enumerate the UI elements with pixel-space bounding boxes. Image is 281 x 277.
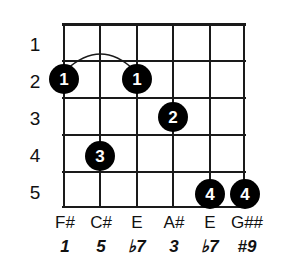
fret-number-5: 5 [22, 183, 48, 202]
fret-number-2: 2 [22, 72, 48, 91]
fret-line-3 [62, 134, 246, 136]
string-line-3 [136, 23, 138, 208]
finger-dot-string5-fret5[interactable]: 4 [195, 179, 225, 209]
interval-label-string-6: #9 [224, 238, 270, 255]
finger-dot-string4-fret3[interactable]: 2 [158, 102, 188, 132]
nut-line [62, 23, 246, 26]
fret-number-3: 3 [22, 109, 48, 128]
string-line-1 [63, 23, 65, 208]
finger-dot-string6-fret5[interactable]: 4 [230, 179, 260, 209]
fret-number-1: 1 [22, 35, 48, 54]
finger-dot-string1-fret2[interactable]: 1 [49, 64, 79, 94]
fret-line-1 [62, 60, 246, 62]
finger-dot-string2-fret4[interactable]: 3 [85, 141, 115, 171]
fret-number-4: 4 [22, 146, 48, 165]
fret-line-2 [62, 97, 246, 99]
string-line-2 [99, 23, 101, 208]
finger-dot-string3-fret2[interactable]: 1 [122, 64, 152, 94]
fret-line-4 [62, 171, 246, 173]
chord-diagram: 1 2 3 4 5 1 1 2 3 4 4 F# C# E A# E [0, 0, 281, 277]
note-label-string-6: G## [224, 214, 270, 231]
